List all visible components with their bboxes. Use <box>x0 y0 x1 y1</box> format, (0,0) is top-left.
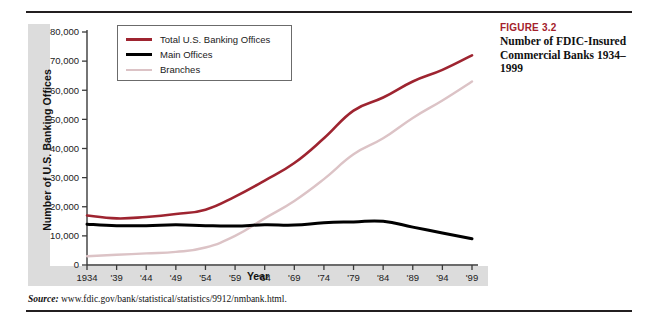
legend-swatch-total <box>126 38 152 41</box>
source-line: Source: www.fdic.gov/bank/statistical/st… <box>28 294 287 304</box>
svg-text:20,000: 20,000 <box>50 201 79 212</box>
svg-text:'44: '44 <box>140 272 152 283</box>
svg-text:30,000: 30,000 <box>50 172 79 183</box>
svg-text:'39: '39 <box>110 272 122 283</box>
svg-text:0: 0 <box>74 259 79 270</box>
y-tick-labels: 010,00020,00030,00040,00050,00060,00070,… <box>50 26 79 270</box>
source-url: www.fdic.gov/bank/statistical/statistics… <box>61 294 287 304</box>
svg-text:40,000: 40,000 <box>50 143 79 154</box>
legend-item-total: Total U.S. Banking Offices <box>118 32 291 47</box>
series-line-branches <box>87 82 472 257</box>
svg-text:'54: '54 <box>199 272 211 283</box>
figure-number: FIGURE 3.2 <box>500 22 635 33</box>
figure-title: Number of FDIC-Insured Commercial Banks … <box>500 35 635 76</box>
svg-text:'84: '84 <box>377 272 389 283</box>
legend-swatch-main <box>126 53 152 56</box>
svg-text:'79: '79 <box>347 272 359 283</box>
svg-text:'99: '99 <box>466 272 478 283</box>
svg-text:'64: '64 <box>258 272 270 283</box>
svg-text:'59: '59 <box>229 272 241 283</box>
svg-text:1934: 1934 <box>76 272 97 283</box>
svg-text:10,000: 10,000 <box>50 230 79 241</box>
figure-caption: FIGURE 3.2 Number of FDIC-Insured Commer… <box>500 22 635 76</box>
data-series-group <box>87 55 472 256</box>
chart-legend: Total U.S. Banking Offices Main Offices … <box>117 25 292 81</box>
legend-label-branches: Branches <box>160 64 200 75</box>
legend-item-branches: Branches <box>118 62 291 77</box>
svg-text:70,000: 70,000 <box>50 55 79 66</box>
svg-text:'89: '89 <box>407 272 419 283</box>
legend-swatch-branches <box>126 69 152 71</box>
svg-text:'69: '69 <box>288 272 300 283</box>
svg-text:80,000: 80,000 <box>50 26 79 37</box>
svg-text:60,000: 60,000 <box>50 85 79 96</box>
x-axis-group: 1934'39'44'49'54'59'64'69'74'79'84'89'94… <box>76 265 478 283</box>
x-tick-labels: 1934'39'44'49'54'59'64'69'74'79'84'89'94… <box>76 272 478 283</box>
svg-text:'94: '94 <box>436 272 448 283</box>
svg-text:'74: '74 <box>318 272 330 283</box>
svg-text:50,000: 50,000 <box>50 114 79 125</box>
y-axis-group: 010,00020,00030,00040,00050,00060,00070,… <box>50 26 87 270</box>
legend-label-total: Total U.S. Banking Offices <box>160 34 270 45</box>
source-label: Source: <box>28 294 59 304</box>
y-tick-marks <box>82 32 87 265</box>
legend-item-main: Main Offices <box>118 47 291 62</box>
svg-text:'49: '49 <box>170 272 182 283</box>
x-tick-marks <box>87 265 472 270</box>
legend-label-main: Main Offices <box>160 49 213 60</box>
series-line-main-offices <box>87 221 472 239</box>
